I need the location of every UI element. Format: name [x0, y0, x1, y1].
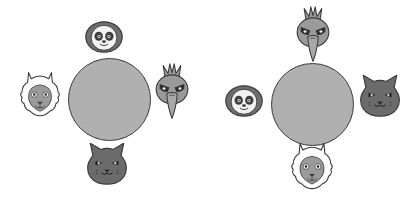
- diagram-canvas: Left tableRight table: [0, 0, 413, 199]
- table-group-label: Right table: [207, 0, 208, 1]
- table-group-left-table: Left table: [0, 0, 206, 199]
- table-group-label: Left table: [0, 0, 1, 1]
- round-table-left-table: [68, 58, 151, 141]
- sloth-face-icon-glyph: [85, 21, 123, 53]
- round-table-right-table: [271, 63, 354, 146]
- bird-face-icon-glyph: [291, 7, 335, 63]
- llama-face-icon-glyph: [289, 143, 335, 192]
- table-group-right-table: Right table: [207, 0, 413, 199]
- sloth-face-icon-glyph: [225, 85, 263, 117]
- llama-face-icon-glyph: [18, 72, 62, 119]
- cat-face-icon-glyph: [358, 74, 402, 117]
- cat-face-icon-glyph: [85, 142, 129, 185]
- bird-face-icon-glyph: [150, 64, 194, 120]
